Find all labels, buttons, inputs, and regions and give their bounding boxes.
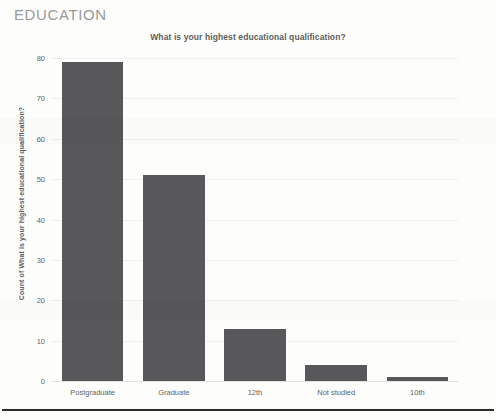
- x-tick-label: 12th: [248, 388, 263, 397]
- y-tick-label: 80: [37, 54, 45, 63]
- bar-chart-figure: What is your highest educational qualifi…: [0, 22, 496, 392]
- y-tick-label: 10: [37, 336, 45, 345]
- chart-title: What is your highest educational qualifi…: [0, 32, 496, 42]
- bar[interactable]: [305, 365, 367, 381]
- gridline: 0: [52, 381, 458, 382]
- bar[interactable]: [387, 377, 449, 381]
- x-tick-label: Not studied: [317, 388, 355, 397]
- x-tick-label: 10th: [410, 388, 425, 397]
- y-tick-label: 0: [41, 377, 45, 386]
- plot-area: 01020304050607080PostgraduateGraduate12t…: [52, 58, 458, 381]
- page-bottom-rule: [2, 409, 494, 411]
- section-heading: EDUCATION: [14, 6, 107, 23]
- y-axis-title: Count of What is your highest educationa…: [18, 99, 25, 309]
- y-tick-label: 20: [37, 296, 45, 305]
- bar[interactable]: [143, 175, 205, 381]
- y-tick-label: 40: [37, 215, 45, 224]
- x-tick-label: Graduate: [158, 388, 189, 397]
- y-tick-label: 70: [37, 94, 45, 103]
- y-tick-label: 30: [37, 255, 45, 264]
- bar[interactable]: [62, 62, 124, 381]
- gridline: 80: [52, 58, 458, 59]
- bar[interactable]: [224, 329, 286, 381]
- x-tick-label: Postgraduate: [70, 388, 115, 397]
- y-tick-label: 60: [37, 134, 45, 143]
- y-tick-label: 50: [37, 175, 45, 184]
